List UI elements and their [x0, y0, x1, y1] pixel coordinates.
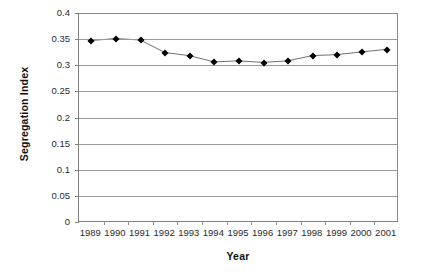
y-axis-tick-label: 0.3	[57, 61, 70, 71]
x-axis-tickmark	[350, 221, 351, 225]
y-axis-tickmark	[75, 196, 79, 197]
gridline	[79, 91, 398, 92]
x-axis-tick-label: 2001	[375, 228, 396, 238]
y-axis-tickmark	[75, 39, 79, 40]
y-axis-tickmark	[75, 144, 79, 145]
x-axis-tickmark	[374, 221, 375, 225]
y-axis-tick-label: 0.1	[57, 165, 70, 175]
x-axis-tick-label: 1993	[178, 228, 199, 238]
x-axis-tick-label: 1989	[80, 228, 101, 238]
gridline	[79, 144, 398, 145]
x-axis-tick-labels: 1989199019911992199319941995199619971998…	[78, 228, 398, 246]
gridline	[79, 170, 398, 171]
gridline	[79, 13, 398, 14]
x-axis-tick-label: 1995	[227, 228, 248, 238]
x-axis-tick-label: 1992	[154, 228, 175, 238]
y-axis-tickmark	[75, 13, 79, 14]
y-axis-tick-label: 0.15	[52, 139, 71, 149]
y-axis-tick-label: 0.25	[52, 87, 71, 97]
y-axis-tick-label: 0.35	[52, 34, 71, 44]
x-axis-tickmark	[301, 221, 302, 225]
chart-figure: Segregation Index 00.050.10.150.20.250.3…	[0, 0, 427, 277]
x-axis-tick-label: 1998	[301, 228, 322, 238]
y-axis-tick-labels: 00.050.10.150.20.250.30.350.4	[38, 13, 74, 222]
x-axis-tick-label: 1990	[104, 228, 125, 238]
y-axis-title: Segregation Index	[14, 0, 34, 228]
y-axis-tickmark	[75, 118, 79, 119]
plot-area	[78, 13, 398, 222]
y-axis-tickmark	[75, 222, 79, 223]
x-axis-tick-label: 1996	[252, 228, 273, 238]
x-axis-tickmark	[227, 221, 228, 225]
x-axis-tick-label: 1991	[129, 228, 150, 238]
x-axis-tick-label: 1994	[203, 228, 224, 238]
gridline	[79, 196, 398, 197]
x-axis-tickmark	[128, 221, 129, 225]
y-axis-tick-label: 0.2	[57, 113, 70, 123]
y-axis-tickmark	[75, 91, 79, 92]
x-axis-tickmark	[276, 221, 277, 225]
x-axis-tickmark	[202, 221, 203, 225]
y-axis-tick-label: 0	[65, 217, 70, 227]
x-axis-tickmark	[177, 221, 178, 225]
gridline	[79, 118, 398, 119]
y-axis-title-text: Segregation Index	[18, 67, 30, 161]
x-axis-tick-label: 2000	[350, 228, 371, 238]
x-axis-title: Year	[78, 250, 398, 262]
x-axis-tickmark	[325, 221, 326, 225]
x-axis-tickmark	[153, 221, 154, 225]
x-axis-tickmark	[251, 221, 252, 225]
y-axis-tick-label: 0.05	[52, 191, 71, 201]
gridline	[79, 39, 398, 40]
gridline	[79, 65, 398, 66]
y-axis-tickmark	[75, 170, 79, 171]
x-axis-tickmark	[104, 221, 105, 225]
y-axis-tickmark	[75, 65, 79, 66]
x-axis-tick-label: 1999	[326, 228, 347, 238]
plot-right-border	[397, 13, 398, 221]
x-axis-tick-label: 1997	[277, 228, 298, 238]
y-axis-tick-label: 0.4	[57, 8, 70, 18]
